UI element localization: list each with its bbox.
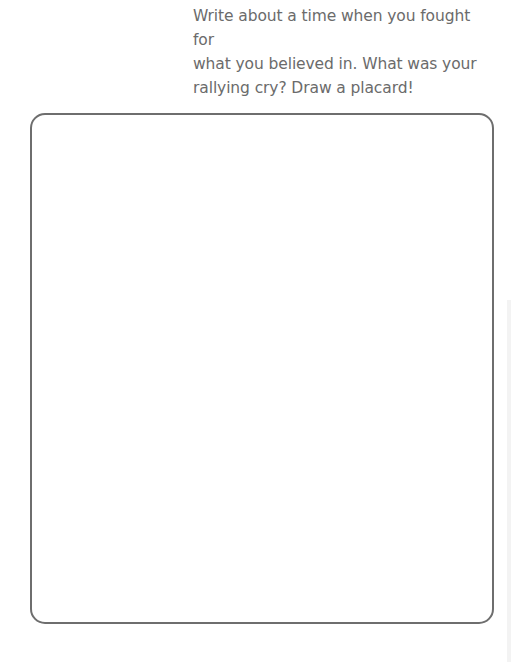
prompt-line-2: what you believed in. What was your bbox=[193, 52, 493, 76]
prompt-line-1: Write about a time when you fought for bbox=[193, 4, 493, 52]
page-edge-shadow bbox=[507, 300, 511, 662]
placard-drawing-area[interactable] bbox=[30, 113, 494, 624]
prompt-line-3: rallying cry? Draw a placard! bbox=[193, 76, 493, 100]
journal-prompt: Write about a time when you fought for w… bbox=[193, 4, 493, 100]
